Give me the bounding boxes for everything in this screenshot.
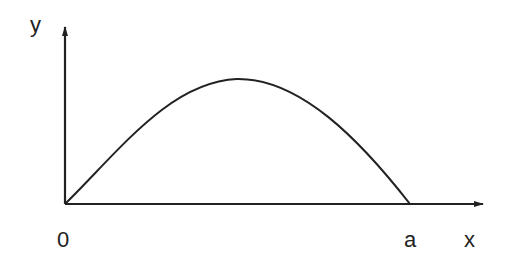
a-tick-label: a	[404, 229, 416, 251]
y-axis-label: y	[30, 14, 41, 36]
diagram-canvas: y 0 a x	[0, 0, 512, 266]
x-axis-label: x	[464, 229, 475, 251]
plot-svg	[0, 0, 512, 266]
curve	[65, 79, 410, 204]
origin-label: 0	[57, 229, 69, 251]
